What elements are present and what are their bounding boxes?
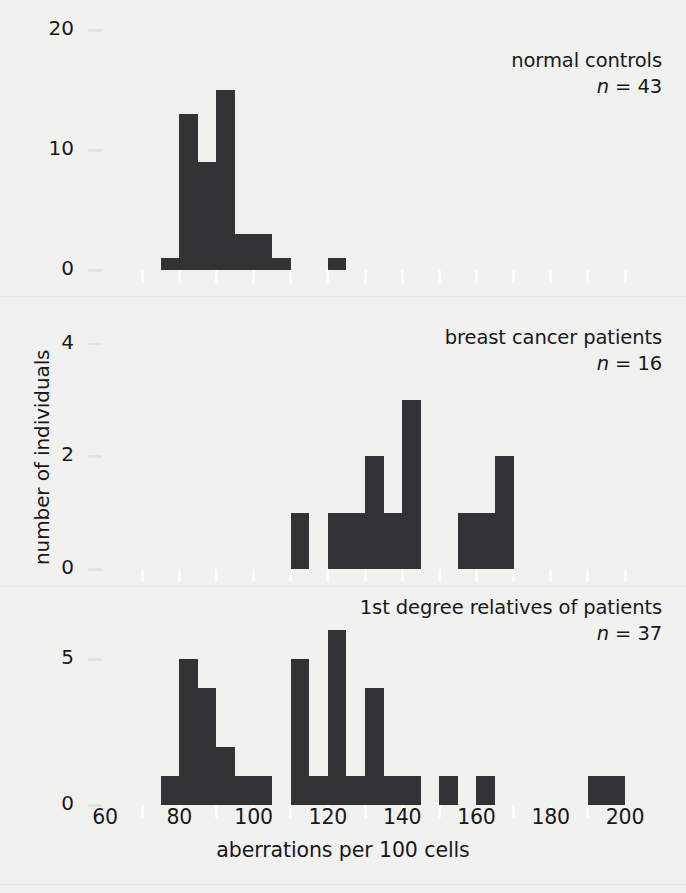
panel-normal-controls: normal controls n = 43 01020 [0,18,686,296]
histogram-bar [328,258,347,270]
histogram-bar [476,513,495,569]
x-tick-label: 60 [92,805,118,829]
histogram-bar [476,776,495,805]
x-tick [475,270,478,283]
x-tick [549,270,552,283]
x-axis-tick-labels: 6080100120140160180200 [0,805,686,835]
plot-area-relatives [0,595,686,805]
histogram-bar [254,234,273,270]
histogram-bar [588,776,607,805]
histogram-bar [458,513,477,569]
histogram-bar [291,513,310,569]
y-tick-dash [88,568,102,571]
plot-area-normal-controls [0,18,686,270]
x-tick [178,270,181,283]
x-tick [141,569,144,582]
y-tick-label: 20 [28,18,74,38]
x-tick-marks-panel-1 [0,270,686,283]
x-tick [624,569,627,582]
scan-artifact [0,884,686,885]
x-tick [438,270,441,283]
x-tick [438,569,441,582]
x-tick [401,270,404,283]
histogram-bar [161,776,180,805]
x-tick [586,270,589,283]
histogram-bar [402,400,421,569]
x-tick-label: 160 [457,805,496,829]
x-tick [401,569,404,582]
scan-artifact [0,296,686,297]
histogram-bar [235,776,254,805]
x-tick [475,569,478,582]
x-tick [624,270,627,283]
histogram-bar [384,776,403,805]
histogram-bar [495,456,514,569]
histogram-bar [346,776,365,805]
histogram-bar [346,513,365,569]
histogram-bar [216,90,235,270]
histogram-bar [365,688,384,805]
x-tick [326,569,329,582]
x-tick [141,270,144,283]
histogram-bar [179,659,198,805]
x-tick-label: 200 [606,805,645,829]
x-tick [252,569,255,582]
histogram-bar [384,513,403,569]
histogram-bar [309,776,328,805]
histogram-bar [216,747,235,805]
x-tick-label: 80 [166,805,192,829]
x-tick [586,569,589,582]
histogram-bar [235,234,254,270]
histogram-bar [254,776,273,805]
histogram-bar [439,776,458,805]
histogram-bar [179,114,198,270]
x-tick [364,270,367,283]
x-tick-label: 100 [234,805,273,829]
x-tick-marks-panel-2 [0,569,686,582]
x-tick [215,270,218,283]
panel-first-degree-relatives: 1st degree relatives of patients n = 37 … [0,595,686,810]
x-tick [549,569,552,582]
x-tick [326,270,329,283]
histogram-bar [402,776,421,805]
panel-breast-cancer-patients: breast cancer patients n = 16 024 [0,310,686,586]
x-tick [252,270,255,283]
histogram-bar [198,688,217,805]
x-tick [364,569,367,582]
y-tick-dash [88,269,102,272]
histogram-figure: normal controls n = 43 01020 breast canc… [0,0,686,893]
histogram-bar [328,513,347,569]
histogram-bar [606,776,625,805]
histogram-bar [365,456,384,569]
scan-artifact [0,586,686,587]
x-axis-title: aberrations per 100 cells [0,838,686,862]
histogram-bar [328,630,347,805]
histogram-bar [198,162,217,270]
y-tick-dash [88,29,102,32]
histogram-bar [291,659,310,805]
x-tick [289,270,292,283]
x-tick [512,569,515,582]
x-tick-label: 140 [383,805,422,829]
y-tick-dash [88,658,102,661]
y-tick-label: 0 [28,258,74,278]
y-tick-label: 10 [28,138,74,158]
y-tick-label: 5 [28,647,74,667]
x-tick [289,569,292,582]
y-tick-dash [88,455,102,458]
x-tick [178,569,181,582]
x-tick-label: 120 [309,805,348,829]
histogram-bar [272,258,291,270]
y-tick-dash [88,343,102,346]
x-tick [512,270,515,283]
plot-area-breast-cancer [0,310,686,569]
x-tick-label: 180 [531,805,570,829]
y-tick-dash [88,149,102,152]
histogram-bar [161,258,180,270]
y-axis-title: number of individuals [30,350,54,565]
x-tick [215,569,218,582]
